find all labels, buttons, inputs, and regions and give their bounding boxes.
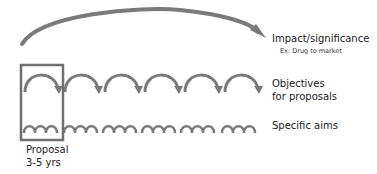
objectives-label-line1: Objectives — [272, 78, 325, 90]
impact-example: Ex: Drug to market — [280, 47, 342, 55]
impact-label: Impact/significance — [272, 33, 369, 45]
aims-label: Specific aims — [272, 120, 338, 132]
objectives-label-line2: for proposals — [272, 91, 337, 103]
proposal-label-line1: Proposal — [26, 144, 68, 156]
aims-arcs — [24, 126, 255, 133]
proposal-label-line2: 3-5 yrs — [26, 157, 61, 169]
objectives-arcs — [25, 75, 263, 94]
impact-arrow — [22, 9, 266, 44]
